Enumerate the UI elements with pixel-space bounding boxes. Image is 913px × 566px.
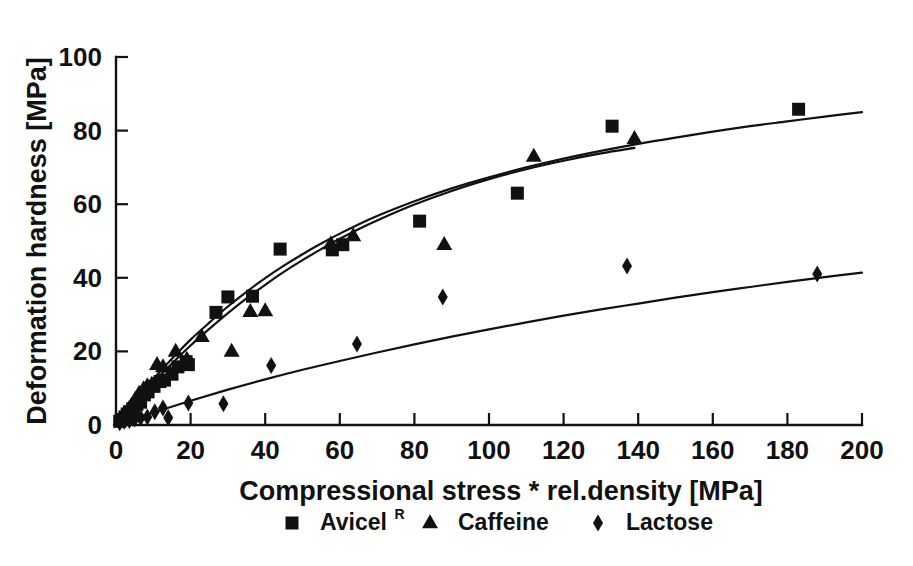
legend-item-lactose: Lactose (593, 509, 713, 535)
x-tick-label: 100 (467, 435, 510, 465)
marker-triangle (224, 343, 240, 357)
marker-diamond (622, 258, 632, 275)
marker-triangle (526, 148, 542, 162)
fit-curve (116, 148, 634, 425)
scatter-plot: 020406080100020406080100120140160180200C… (0, 0, 913, 566)
series-avicel (113, 103, 805, 428)
fit-curve (116, 112, 862, 425)
marker-square (792, 103, 805, 116)
chart-figure: 020406080100020406080100120140160180200C… (0, 0, 913, 566)
fit-curves (116, 112, 862, 425)
marker-diamond (218, 395, 228, 412)
marker-square (286, 517, 299, 530)
y-tick-label: 0 (88, 410, 102, 440)
marker-square (274, 243, 287, 256)
marker-diamond (183, 394, 193, 411)
marker-square (511, 187, 524, 200)
axes (116, 57, 862, 425)
legend-label: Lactose (626, 509, 713, 535)
x-tick-label: 140 (617, 435, 660, 465)
x-tick-label: 180 (766, 435, 809, 465)
marker-diamond (266, 357, 276, 374)
marker-triangle (422, 514, 438, 528)
x-tick-label: 20 (176, 435, 205, 465)
x-tick-label: 60 (325, 435, 354, 465)
marker-triangle (242, 303, 258, 317)
x-tick-label: 160 (691, 435, 734, 465)
x-tick-label: 200 (840, 435, 883, 465)
marker-diamond (438, 288, 448, 305)
marker-square (209, 306, 222, 319)
legend-item-caffeine: Caffeine (422, 509, 549, 535)
legend-label: Caffeine (458, 509, 549, 535)
marker-square (221, 290, 234, 303)
legend-item-avicel: AvicelR (286, 506, 405, 535)
x-tick-label: 80 (400, 435, 429, 465)
marker-triangle (257, 302, 273, 316)
axis-labels: 020406080100020406080100120140160180200C… (22, 42, 884, 506)
y-tick-label: 60 (73, 189, 102, 219)
marker-square (246, 290, 259, 303)
x-axis-title: Compressional stress * rel.density [MPa] (239, 476, 763, 506)
y-axis-title: Deformation hardness [MPa] (22, 57, 52, 425)
marker-diamond (812, 266, 822, 283)
x-tick-label: 40 (251, 435, 280, 465)
legend-label: Avicel (320, 509, 387, 535)
series-caffeine (112, 130, 642, 425)
x-tick-label: 120 (542, 435, 585, 465)
y-tick-label: 80 (73, 116, 102, 146)
axis-frame (116, 57, 862, 425)
data-points (112, 103, 822, 432)
y-tick-label: 40 (73, 263, 102, 293)
marker-triangle (626, 130, 642, 144)
legend-superscript: R (394, 506, 404, 522)
marker-diamond (593, 515, 603, 532)
y-tick-label: 100 (59, 42, 102, 72)
chart-legend: AvicelRCaffeineLactose (286, 506, 713, 535)
y-tick-label: 20 (73, 336, 102, 366)
marker-triangle (436, 236, 452, 250)
marker-square (606, 120, 619, 133)
x-tick-label: 0 (109, 435, 123, 465)
marker-diamond (352, 336, 362, 353)
marker-square (413, 215, 426, 228)
series-lactose (115, 258, 823, 432)
